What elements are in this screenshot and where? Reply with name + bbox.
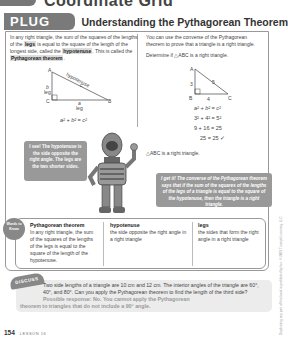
page-footer: 154 LESSON 16 (4, 329, 46, 336)
robot-mascot-icon (86, 131, 142, 219)
step-4: 25 = 25 ✓ (200, 135, 225, 141)
term-legs: legs the sides that form the right angle… (198, 222, 264, 243)
section-title: Understanding the Pythagorean Theorem (81, 16, 288, 28)
term-definition: In any right triangle, the sum of the sq… (30, 229, 93, 263)
step-2: 3² + 4² = 5² (194, 115, 221, 121)
text: . (63, 55, 64, 61)
words-to-know-badge: Words to Know (3, 218, 25, 240)
term-title: hypotenuse (110, 222, 188, 229)
definition-paragraph: In any right triangle, the sum of the sq… (10, 34, 138, 62)
term-hypotenuse: hypotenuse the side opposite the right a… (110, 222, 188, 243)
vertex-a-label: A (190, 66, 193, 72)
plug-in-header: PLUG IN Understanding the Pythagorean Th… (4, 13, 288, 30)
side-ab-length: 3 (190, 81, 193, 87)
vertex-c-label: C (46, 98, 50, 104)
top-banner: Coordinate Grid (0, 0, 288, 9)
term-definition: the side opposite the right angle in a r… (110, 229, 186, 242)
vertex-a-label: A (48, 67, 51, 73)
vertex-c-label: C (228, 95, 232, 101)
answer-line-2: theorem to triangles that do not include… (20, 303, 150, 309)
chapter-title: Coordinate Grid (44, 0, 173, 9)
highlight-hypotenuse: hypotenuse (62, 48, 92, 54)
discuss-question: Two side lengths of a triangle are 10 cm… (43, 282, 267, 303)
plug-in-badge: PLUG IN (4, 13, 75, 30)
term-definition: the sides that form the right angle in a… (198, 229, 259, 242)
lesson-label: LESSON 16 (20, 331, 46, 336)
leg-label-vertical: leg (44, 89, 51, 95)
term-divider (103, 222, 104, 266)
answer-line-1: Possible response: No. You cannot apply … (43, 296, 190, 302)
term-divider (192, 222, 193, 266)
conclusion: △ABC is a right triangle. (146, 150, 200, 156)
converse-paragraph: You can use the converse of the Pythagor… (146, 34, 266, 63)
step-1: a² + b² = c² (194, 105, 221, 111)
leg-label-horizontal: leg (76, 105, 83, 111)
copyright-text: Duplicating any part of this book is pro… (279, 216, 283, 335)
term-pythagorean-theorem: Pythagorean theorem In any right triangl… (30, 222, 96, 264)
prompt-text: Determine if △ABC is a right triangle. (146, 52, 266, 59)
term-title: legs (198, 222, 264, 229)
highlight-legs: legs (24, 41, 36, 47)
side-bc-length: 4 (207, 96, 210, 102)
example-triangle-diagram (190, 66, 250, 102)
term-title: Pythagorean theorem (30, 222, 96, 229)
text: . This is called the (92, 48, 132, 54)
top-tab (0, 0, 36, 6)
vertex-b-label: B (189, 95, 192, 101)
page-number: 154 (4, 329, 15, 336)
side-ac-length: 5 (212, 79, 215, 85)
copyright-notice: Duplicating any part of this book is pro… (279, 215, 285, 335)
intro-text: You can use the converse of the Pythagor… (146, 34, 266, 48)
question-text: Two side lengths of a triangle are 10 cm… (43, 282, 259, 295)
speech-bubble-left: I see! The hypotenuse is the side opposi… (24, 141, 87, 181)
step-3: 9 + 16 = 25 (194, 125, 222, 131)
vertex-b-label: B (108, 98, 111, 104)
speech-bubble-right: I get it! The converse of the Pythagorea… (156, 173, 272, 207)
pythagorean-formula: a² + b² = c² (60, 117, 87, 123)
highlight-theorem: Pythagorean theorem (10, 55, 63, 61)
